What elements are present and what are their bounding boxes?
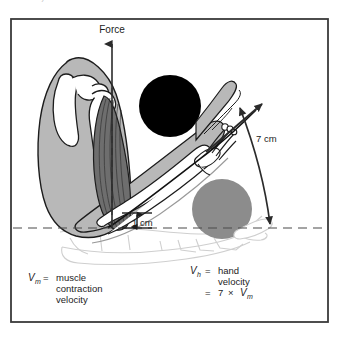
- caption-left-equals: =: [43, 272, 49, 283]
- caption-right-relation-factor: 7: [218, 287, 223, 298]
- caption-right-relation-times: ×: [228, 287, 234, 298]
- caption-right-relation-equals: =: [205, 287, 211, 298]
- distance-1cm-value: 1: [132, 217, 137, 228]
- distance-7cm-label: 7 cm: [256, 133, 277, 144]
- biomechanics-lever-diagram: Force 7 cm 1 cm V m = muscle contraction…: [0, 0, 342, 346]
- caption-right-line-1: hand: [218, 265, 239, 276]
- caption-right-equals: =: [205, 265, 211, 276]
- caption-left-line-3: velocity: [56, 294, 88, 305]
- caption-left-line-2: contraction: [56, 283, 102, 294]
- distance-1cm-unit: cm: [140, 217, 153, 228]
- caption-left-subscript: m: [35, 278, 41, 285]
- figure-container: the hand).: [0, 0, 342, 346]
- force-label: Force: [99, 24, 125, 35]
- caption-right-line-2: velocity: [218, 276, 250, 287]
- caption-left-line-1: muscle: [56, 272, 86, 283]
- caption-right-relation-subscript: m: [247, 293, 253, 300]
- caption-right-subscript: h: [197, 271, 201, 278]
- ball-raised: [139, 75, 201, 137]
